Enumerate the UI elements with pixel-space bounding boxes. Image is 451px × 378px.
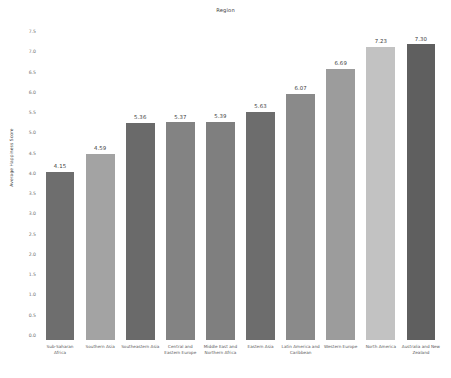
x-axis-tick-label: Middle East and Northern Africa [200, 344, 240, 355]
bar-value-label: 5.39 [214, 113, 226, 119]
y-axis-tick: 5.0 [29, 130, 36, 135]
y-axis-tick: 1.0 [29, 292, 36, 297]
bar: 7.30 [407, 44, 436, 340]
y-axis-tick: 2.0 [29, 251, 36, 256]
x-axis-tick-label: Southern Asia [80, 344, 120, 350]
y-axis-tick: 7.5 [29, 29, 36, 34]
x-axis-tick-label: Latin America and Caribbean [281, 344, 321, 355]
bar-value-label: 5.37 [174, 114, 186, 120]
x-axis-tick-label: Sub-Saharan Africa [40, 344, 80, 355]
bar: 5.63 [246, 112, 275, 340]
bar: 7.23 [366, 47, 395, 340]
y-axis-tick: 6.5 [29, 69, 36, 74]
bar-value-label: 5.63 [254, 103, 266, 109]
bar: 5.39 [206, 122, 235, 340]
y-axis-tick: 0.5 [29, 312, 36, 317]
bar-value-label: 7.23 [375, 38, 387, 44]
bar: 4.15 [46, 172, 75, 340]
bar: 5.37 [166, 122, 195, 340]
y-axis-tick: 2.5 [29, 231, 36, 236]
x-axis-tick-label: Southeastern Asia [120, 344, 160, 350]
bar: 6.07 [286, 94, 315, 340]
bar-value-label: 6.07 [294, 85, 306, 91]
y-axis-tick: 4.5 [29, 150, 36, 155]
bar-chart-figure: Region Average Happiness Score 0.00.51.0… [0, 0, 451, 378]
plot-area: 0.00.51.01.52.02.53.03.54.04.55.05.56.06… [40, 36, 441, 340]
x-axis-tick-label: Western Europe [321, 344, 361, 350]
y-axis-tick: 3.5 [29, 191, 36, 196]
bar-value-label: 5.36 [134, 114, 146, 120]
y-axis-tick: 3.0 [29, 211, 36, 216]
bar-value-label: 4.59 [94, 145, 106, 151]
y-axis-tick: 4.0 [29, 170, 36, 175]
bar-value-label: 7.30 [415, 36, 427, 42]
y-axis-tick: 7.0 [29, 49, 36, 54]
bar: 5.36 [126, 123, 155, 340]
y-axis-tick: 0.0 [29, 333, 36, 338]
bar: 4.59 [86, 154, 115, 340]
bar-value-label: 4.15 [54, 163, 66, 169]
x-axis-tick-label: Central and Eastern Europe [160, 344, 200, 355]
bar: 6.69 [326, 69, 355, 340]
y-axis-tick: 6.0 [29, 89, 36, 94]
bar-value-label: 6.69 [335, 60, 347, 66]
x-axis-tick-label: North America [361, 344, 401, 350]
x-axis-tick-label: Australia and New Zealand [401, 344, 441, 355]
y-axis-tick: 5.5 [29, 110, 36, 115]
y-axis-label: Average Happiness Score [9, 103, 14, 213]
y-axis-tick: 1.5 [29, 272, 36, 277]
chart-title: Region [0, 7, 451, 13]
x-axis-tick-label: Eastern Asia [241, 344, 281, 350]
